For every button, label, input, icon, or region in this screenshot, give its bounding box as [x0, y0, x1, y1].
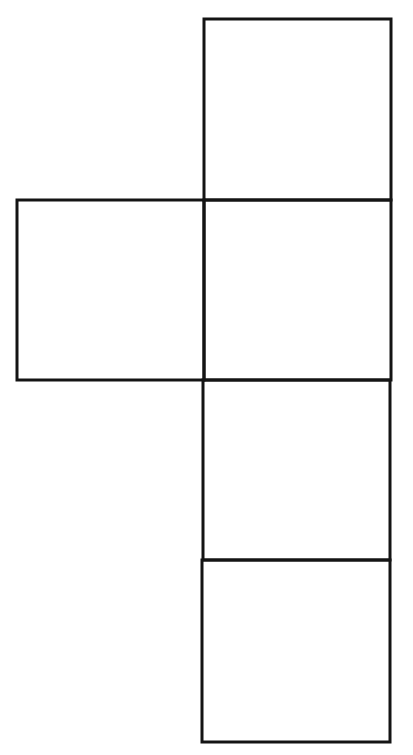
face-lower — [203, 380, 390, 560]
cube-net-diagram — [0, 0, 413, 755]
face-left — [17, 200, 204, 380]
face-top — [204, 19, 391, 200]
face-bottom — [202, 560, 390, 742]
face-center — [204, 200, 391, 380]
